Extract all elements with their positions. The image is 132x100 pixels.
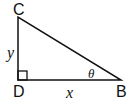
triangle-diagram: C y D x θ B [0, 0, 132, 100]
vertex-label-c: C [13, 2, 25, 18]
vertex-label-d: D [13, 84, 25, 100]
vertex-label-b: B [116, 84, 127, 100]
side-label-y: y [7, 45, 14, 61]
right-angle-marker [18, 71, 27, 80]
angle-label-theta: θ [88, 67, 94, 80]
side-label-x: x [66, 85, 73, 100]
